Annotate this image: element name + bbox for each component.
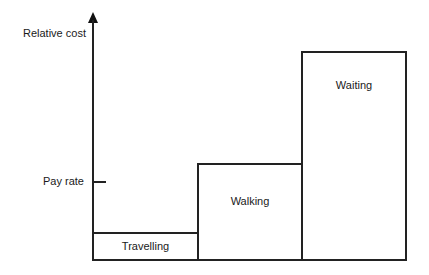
y-axis	[92, 20, 94, 260]
pay-rate-tick	[93, 181, 106, 183]
bar-label-travelling: Travelling	[94, 240, 197, 252]
bar-waiting: Waiting	[301, 51, 407, 261]
y-axis-label: Relative cost	[23, 27, 86, 39]
bar-walking: Walking	[197, 163, 303, 261]
bar-travelling: Travelling	[92, 232, 199, 261]
bar-label-waiting: Waiting	[303, 79, 405, 91]
bar-label-walking: Walking	[199, 195, 301, 207]
pay-rate-label: Pay rate	[43, 175, 84, 187]
